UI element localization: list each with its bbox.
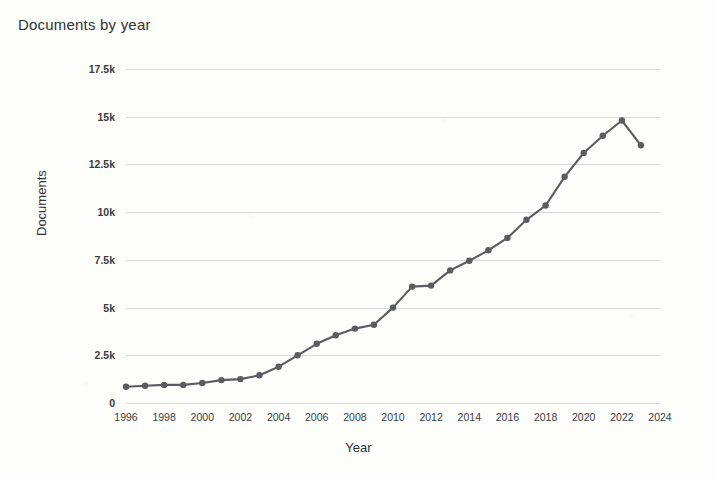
x-axis-title: Year xyxy=(0,440,717,455)
y-tick-label: 2.5k xyxy=(95,349,115,361)
y-tick-label: 0 xyxy=(109,397,115,409)
data-point[interactable] xyxy=(314,341,320,347)
data-point[interactable] xyxy=(428,282,434,288)
series-line xyxy=(126,121,641,387)
data-point[interactable] xyxy=(638,142,644,148)
x-tick-label: 2016 xyxy=(496,411,519,423)
data-point[interactable] xyxy=(237,376,243,382)
y-tick-label: 10k xyxy=(97,206,115,218)
data-point[interactable] xyxy=(600,133,606,139)
x-tick-label: 2014 xyxy=(458,411,481,423)
data-point[interactable] xyxy=(504,235,510,241)
y-tick-label: 17.5k xyxy=(89,63,115,75)
data-point[interactable] xyxy=(485,247,491,253)
data-point[interactable] xyxy=(371,322,377,328)
data-point[interactable] xyxy=(275,364,281,370)
data-point[interactable] xyxy=(256,372,262,378)
line-series xyxy=(126,69,660,403)
data-point[interactable] xyxy=(352,325,358,331)
data-point[interactable] xyxy=(199,380,205,386)
data-point[interactable] xyxy=(447,267,453,273)
data-point[interactable] xyxy=(180,382,186,388)
data-point[interactable] xyxy=(409,283,415,289)
x-tick-label: 2004 xyxy=(267,411,290,423)
x-tick-label: 2022 xyxy=(610,411,633,423)
y-tick-label: 5k xyxy=(103,302,115,314)
y-tick-label: 15k xyxy=(97,111,115,123)
x-tick-label: 2020 xyxy=(572,411,595,423)
data-point[interactable] xyxy=(161,382,167,388)
data-point[interactable] xyxy=(390,304,396,310)
x-tick-label: 2024 xyxy=(648,411,671,423)
y-tick-label: 12.5k xyxy=(89,158,115,170)
chart-title: Documents by year xyxy=(18,16,151,33)
data-point[interactable] xyxy=(523,217,529,223)
data-point[interactable] xyxy=(542,202,548,208)
x-tick-label: 2008 xyxy=(343,411,366,423)
x-tick-label: 2012 xyxy=(419,411,442,423)
x-tick-label: 2010 xyxy=(381,411,404,423)
x-tick-label: 2006 xyxy=(305,411,328,423)
x-tick-label: 1998 xyxy=(152,411,175,423)
data-point[interactable] xyxy=(561,174,567,180)
x-tick-label: 1996 xyxy=(114,411,137,423)
data-point[interactable] xyxy=(294,352,300,358)
data-point[interactable] xyxy=(619,117,625,123)
x-tick-label: 2018 xyxy=(534,411,557,423)
data-point[interactable] xyxy=(333,332,339,338)
data-point[interactable] xyxy=(466,258,472,264)
y-axis-title: Documents xyxy=(34,170,49,236)
x-tick-label: 2002 xyxy=(229,411,252,423)
data-point[interactable] xyxy=(123,384,129,390)
x-tick-label: 2000 xyxy=(191,411,214,423)
data-point[interactable] xyxy=(581,150,587,156)
plot-area: 02.5k5k7.5k10k12.5k15k17.5k 199619982000… xyxy=(126,69,660,403)
y-tick-label: 7.5k xyxy=(95,254,115,266)
data-point[interactable] xyxy=(218,377,224,383)
data-point[interactable] xyxy=(142,383,148,389)
gridline-y-0 xyxy=(126,403,660,404)
